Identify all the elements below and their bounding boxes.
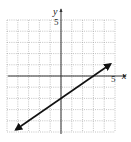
y-axis-label: y [52, 6, 58, 17]
graph-line [16, 64, 111, 130]
x-axis-label: x [121, 70, 127, 81]
x-tick-label-5: 5 [111, 74, 116, 84]
coordinate-plane: x 5 y 5 [0, 0, 131, 142]
y-tick-label-5: 5 [54, 17, 59, 27]
